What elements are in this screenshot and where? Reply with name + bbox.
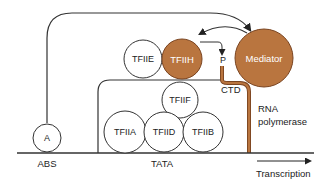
mediator: Mediator: [235, 29, 293, 87]
svg-text:TFIID: TFIID: [153, 127, 176, 137]
rna-polymerase-label-line1: RNA: [258, 103, 279, 114]
svg-text:TFIIB: TFIIB: [192, 127, 214, 137]
svg-text:TFIIA: TFIIA: [114, 127, 136, 137]
transcription-initiation-diagram: A TFIIE TFIIH P Mediator CTD TFIIF TFIIA…: [0, 0, 329, 184]
tfiie: TFIIE: [124, 40, 162, 78]
svg-text:TFIIE: TFIIE: [132, 54, 154, 64]
svg-text:TFIIF: TFIIF: [169, 95, 191, 105]
tfiih-phosphorylation-arrow: [200, 42, 222, 54]
ctd-label: CTD: [221, 84, 241, 95]
tfiih: TFIIH: [162, 39, 202, 79]
tfiia: TFIIA: [104, 111, 146, 153]
phosphate-label: P: [220, 55, 226, 65]
activator-a: A: [33, 124, 61, 152]
svg-text:A: A: [44, 133, 50, 143]
transcription-label: Transcription: [256, 168, 311, 179]
tfiid: TFIID: [144, 112, 184, 152]
tata-label: TATA: [151, 158, 174, 169]
rna-polymerase-label-line2: polymerase: [258, 116, 307, 127]
svg-text:TFIIH: TFIIH: [170, 54, 194, 65]
abs-label: ABS: [37, 158, 56, 169]
tfiib: TFIIB: [183, 112, 223, 152]
svg-text:Mediator: Mediator: [246, 53, 283, 64]
mediator-to-tfiih-arrow: [200, 27, 247, 34]
